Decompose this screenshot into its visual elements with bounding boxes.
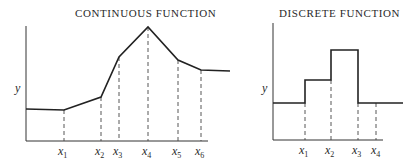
discrete-function-panel: DISCRETE FUNCTION y x1 x2 x3 x4 <box>261 7 403 159</box>
continuous-y-label: y <box>14 81 21 95</box>
x-tick-label: x6 <box>194 144 204 160</box>
x-tick-label: x4 <box>370 143 380 159</box>
x-tick-label: x4 <box>141 144 151 160</box>
x-tick-label: x1 <box>57 144 67 160</box>
continuous-function-panel: CONTINUOUS FUNCTION y x1 x2 x3 x4 x5 x6 <box>14 7 230 160</box>
x-tick-label: x2 <box>324 143 334 159</box>
x-tick-label: x1 <box>298 143 308 159</box>
x-tick-label: x5 <box>171 144 181 160</box>
continuous-title: CONTINUOUS FUNCTION <box>75 7 216 19</box>
discrete-y-label: y <box>261 81 268 95</box>
diagram-canvas: CONTINUOUS FUNCTION y x1 x2 x3 x4 x5 x6 … <box>0 0 420 162</box>
discrete-step-curve <box>273 50 403 103</box>
discrete-title: DISCRETE FUNCTION <box>279 7 400 19</box>
x-tick-label: x3 <box>112 144 122 160</box>
x-tick-label: x3 <box>351 143 361 159</box>
continuous-curve <box>26 27 230 110</box>
x-tick-label: x2 <box>94 144 104 160</box>
